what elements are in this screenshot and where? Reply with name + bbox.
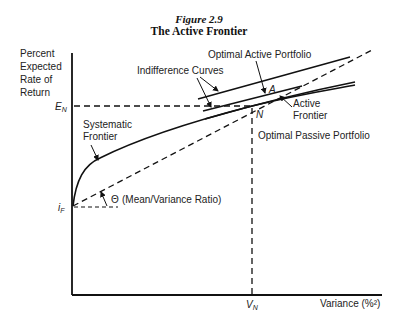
indifference-arrow-lower [197,78,211,107]
systematic-frontier-label: Systematic Frontier [83,119,135,142]
active-frontier-label: Active Frontier [293,98,328,121]
optimal-active-arrow [256,61,265,93]
y-axis-label: Percent Expected Rate of Return [20,48,64,98]
active-frontier-diagram: Percent Expected Rate of Return EN iF Op… [0,0,398,325]
theta-symbol: Θ [111,194,119,205]
theta-description: (Mean/Variance Ratio) [122,194,221,205]
active-frontier-curve [205,82,355,119]
optimal-active-portfolio-label: Optimal Active Portfolio [208,49,312,60]
point-a-label: A [268,84,276,95]
optimal-passive-portfolio-label: Optimal Passive Portfolio [258,130,370,141]
en-label: EN [55,101,68,113]
if-label: iF [58,202,65,214]
indifference-curves-label: Indifference Curves [137,65,224,76]
point-n-label: N [256,109,264,120]
theta-arrow [101,192,107,206]
vn-label: VN [246,299,259,311]
systematic-frontier-arrow [91,145,98,160]
x-axis-label: Variance (%²) [320,298,380,309]
